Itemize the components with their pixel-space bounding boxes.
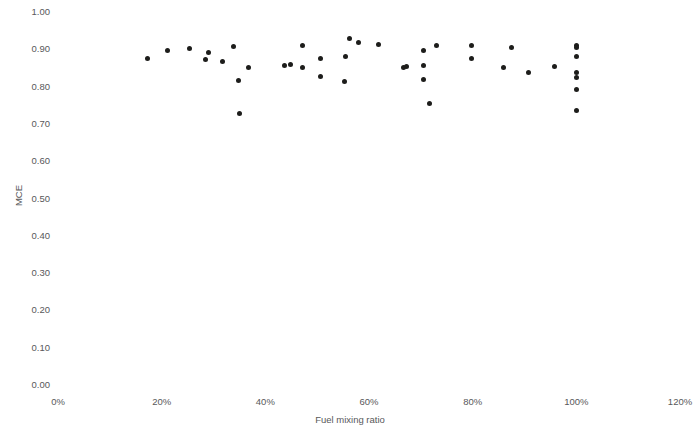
y-axis-tick-label: 0.90: [14, 44, 50, 54]
data-point: [343, 54, 348, 59]
data-point: [231, 44, 236, 49]
x-axis-tick-label: 80%: [443, 396, 503, 407]
y-axis-tick-label: 0.20: [14, 305, 50, 315]
data-point: [187, 46, 192, 51]
data-point: [434, 43, 439, 48]
data-point: [342, 79, 347, 84]
data-point: [318, 56, 323, 61]
data-point: [421, 63, 426, 68]
x-axis-title: Fuel mixing ratio: [0, 414, 700, 425]
data-point: [236, 78, 241, 83]
data-point: [300, 43, 305, 48]
data-point: [574, 87, 579, 92]
data-point: [318, 74, 323, 79]
plot-area: [58, 12, 680, 385]
x-axis-tick-label: 100%: [546, 396, 606, 407]
x-axis-tick-label: 20%: [132, 396, 192, 407]
data-point: [574, 45, 579, 50]
data-point: [421, 77, 426, 82]
data-point: [203, 57, 208, 62]
data-point: [165, 48, 170, 53]
x-axis-tick-label: 0%: [28, 396, 88, 407]
data-point: [220, 59, 225, 64]
data-point: [237, 111, 242, 116]
data-point: [552, 64, 557, 69]
data-point: [145, 56, 150, 61]
data-point: [404, 64, 409, 69]
data-point: [469, 56, 474, 61]
y-axis-tick-label: 0.00: [14, 380, 50, 390]
data-point: [206, 50, 211, 55]
scatter-chart: 0.000.100.200.300.400.500.600.700.800.90…: [0, 0, 700, 430]
data-point: [282, 63, 287, 68]
data-point: [526, 70, 531, 75]
data-point: [246, 65, 251, 70]
y-axis-tick-label: 1.00: [14, 7, 50, 17]
y-axis-tick-label: 0.40: [14, 231, 50, 241]
x-axis-tick-label: 60%: [339, 396, 399, 407]
data-point: [288, 62, 293, 67]
y-axis-title: MCE: [13, 166, 24, 226]
y-axis-tick-label: 0.10: [14, 343, 50, 353]
data-point: [347, 36, 352, 41]
data-point: [356, 40, 361, 45]
y-axis-tick-label: 0.80: [14, 82, 50, 92]
data-point: [509, 45, 514, 50]
x-axis-tick-label: 120%: [650, 396, 700, 407]
data-point: [300, 65, 305, 70]
y-axis-tick-label: 0.70: [14, 119, 50, 129]
data-point: [574, 108, 579, 113]
data-point: [574, 54, 579, 59]
data-point: [376, 42, 381, 47]
y-axis-tick-label: 0.30: [14, 268, 50, 278]
data-point: [501, 65, 506, 70]
x-axis-tick-label: 40%: [235, 396, 295, 407]
data-point: [427, 101, 432, 106]
data-point: [469, 43, 474, 48]
data-point: [421, 48, 426, 53]
data-point: [574, 75, 579, 80]
